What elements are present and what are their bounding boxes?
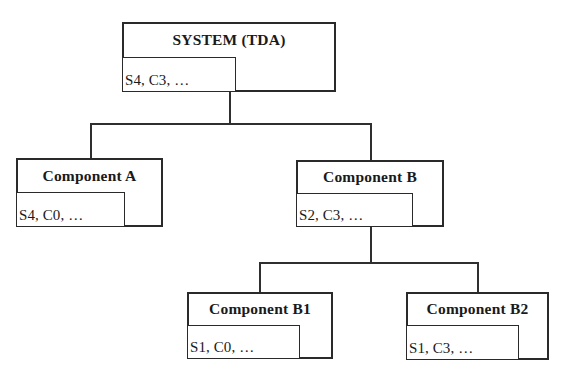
node-component-b1[interactable]: Component B1 S1, C0, … [187, 292, 333, 359]
attribute-box: S1, C3, … [406, 325, 519, 360]
attribute-text: S1, C3, … [409, 340, 473, 357]
node-system[interactable]: SYSTEM (TDA) S4, C3, … [122, 22, 336, 92]
node-component-a[interactable]: Component A S4, C0, … [16, 158, 163, 227]
connector-to-component-b1 [259, 262, 261, 293]
connector-system-down [229, 90, 231, 125]
attribute-box: S4, C3, … [122, 57, 236, 92]
node-component-b[interactable]: Component B S2, C3, … [296, 160, 444, 227]
connector-component-b-down [370, 225, 372, 263]
connector-to-component-b [370, 123, 372, 161]
connector-level1-horizontal [90, 123, 372, 125]
attribute-text: S2, C3, … [299, 207, 363, 224]
node-title: Component A [18, 167, 161, 185]
connector-to-component-a [90, 123, 92, 159]
node-title: Component B1 [189, 300, 331, 318]
attribute-text: S1, C0, … [190, 339, 254, 356]
node-title: SYSTEM (TDA) [124, 31, 334, 49]
connector-level2-horizontal [259, 262, 479, 264]
connector-to-component-b2 [477, 262, 479, 293]
attribute-box: S2, C3, … [296, 193, 413, 227]
attribute-text: S4, C3, … [125, 72, 189, 89]
node-title: Component B [298, 168, 442, 186]
attribute-text: S4, C0, … [19, 207, 83, 224]
attribute-box: S4, C0, … [16, 192, 125, 227]
node-component-b2[interactable]: Component B2 S1, C3, … [406, 292, 549, 360]
attribute-box: S1, C0, … [187, 325, 300, 359]
node-title: Component B2 [408, 300, 547, 318]
